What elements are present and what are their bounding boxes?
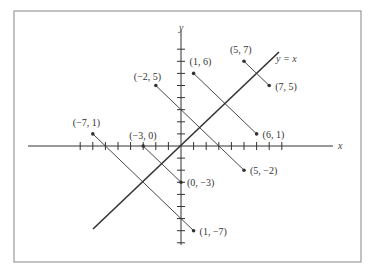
reflection-diagram: xy y = x (5, 7)(7, 5)(1, 6)(6, 1)(−2, 5)… — [0, 0, 373, 272]
point-marker — [192, 229, 196, 233]
point-label: (0, −3) — [187, 177, 214, 189]
point-marker — [91, 132, 95, 136]
point-label: (5, 7) — [230, 44, 252, 56]
y-equals-x-label: y = x — [275, 53, 297, 64]
y-equals-x-line — [93, 52, 279, 229]
point-label: (7, 5) — [275, 81, 297, 93]
point-marker — [267, 84, 271, 88]
point-marker — [242, 168, 246, 172]
x-axis-label: x — [337, 140, 343, 151]
point-marker — [242, 60, 246, 64]
point-label: (−7, 1) — [73, 117, 100, 129]
point-label: (−2, 5) — [134, 71, 161, 83]
point-marker — [154, 84, 158, 88]
point-marker — [141, 144, 145, 148]
point-label: (−3, 0) — [129, 130, 156, 142]
line-y-equals-x: y = x — [93, 52, 297, 229]
point-marker — [192, 72, 196, 76]
point-label: (5, −2) — [250, 165, 277, 177]
point-label: (1, 6) — [190, 56, 212, 68]
point-label: (6, 1) — [263, 129, 285, 141]
point-marker — [179, 181, 183, 185]
point-label: (1, −7) — [200, 226, 227, 238]
y-axis-label: y — [178, 22, 184, 33]
point-marker — [255, 132, 259, 136]
